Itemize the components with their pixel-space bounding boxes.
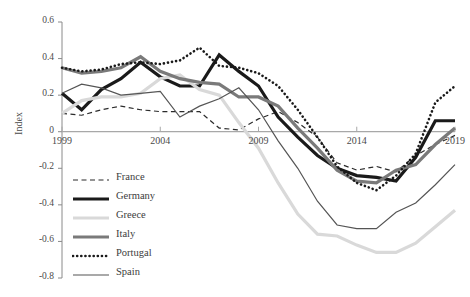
legend-swatch-icon [72,248,110,260]
legend-item-france[interactable]: France [72,168,155,187]
legend-item-spain[interactable]: Spain [72,263,155,282]
y-tick-label: -0.4 [8,198,54,208]
series-line-italy [62,57,455,183]
y-tick-label: -0.2 [8,161,54,171]
legend-item-germany[interactable]: Germany [72,187,155,206]
legend-item-greece[interactable]: Greece [72,206,155,225]
legend-item-label: Germany [116,191,155,202]
legend-swatch-icon [72,229,110,241]
y-tick-label: 0.4 [8,52,54,62]
legend-swatch-icon [72,267,110,279]
x-tick-label: 1999 [42,135,82,146]
y-tick-label: 0.2 [8,88,54,98]
legend-swatch-icon [72,210,110,222]
legend-swatch-icon [72,191,110,203]
y-tick-label: 0 [8,125,54,135]
plot-area [0,0,470,297]
y-tick-label: 0.6 [8,15,54,25]
line-chart: Index 0.60.40.20-0.2-0.4-0.6-0.8 1999200… [0,0,470,297]
legend-item-label: Italy [116,229,135,240]
x-tick-label: 2019 [435,135,470,146]
chart-legend: FranceGermanyGreeceItalyPortugalSpain [72,168,155,282]
legend-swatch-icon [72,172,110,184]
x-tick-label: 2004 [140,135,180,146]
x-tick-label: 2009 [239,135,279,146]
legend-item-label: Portugal [116,248,152,259]
x-tick-label: 2014 [337,135,377,146]
y-tick-label: -0.6 [8,234,54,244]
legend-item-portugal[interactable]: Portugal [72,244,155,263]
y-tick-label: -0.8 [8,271,54,281]
legend-item-label: Spain [116,267,140,278]
legend-item-label: Greece [116,210,146,221]
legend-item-italy[interactable]: Italy [72,225,155,244]
legend-item-label: France [116,172,145,183]
